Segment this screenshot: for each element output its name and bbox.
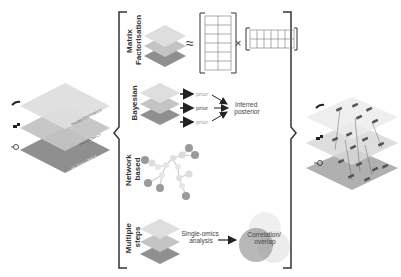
tall-matrix xyxy=(205,16,231,70)
times-symbol: × xyxy=(235,37,241,49)
input-omics-stack: TRANSCRIPTOMICS PROTEOMICS METABOLOMICS xyxy=(11,83,110,173)
single-omics-line2: analysis xyxy=(189,237,213,245)
method-title-line1: Multiple xyxy=(124,222,133,253)
posterior-line1: Inferred xyxy=(235,101,258,108)
dna-icon xyxy=(316,105,324,108)
output-integrated-stack xyxy=(306,97,398,190)
correlation-line2: overlap xyxy=(254,238,276,246)
wide-matrix xyxy=(250,30,294,48)
prior-label: prior xyxy=(196,105,208,111)
approx-symbol: ≈ xyxy=(186,35,194,51)
method-title-line1: Network xyxy=(124,154,133,186)
molecule-icon xyxy=(11,145,19,150)
protein-icon xyxy=(13,123,20,128)
prior-label: prior xyxy=(196,91,208,97)
output-transcriptomics-layer xyxy=(306,97,398,139)
method-title-line1: Matrix xyxy=(125,29,134,53)
posterior-line2: posterior xyxy=(234,108,260,116)
correlation-line1: Correlation/ xyxy=(247,231,281,238)
method-bayesian: Bayesian prior prior prior Inferred post… xyxy=(130,83,260,125)
svg-text:Inferred posterior: Inferred posterior xyxy=(234,101,260,116)
prior-label: prior xyxy=(196,119,208,125)
svg-text:Matrix Factorisation: Matrix Factorisation xyxy=(125,15,143,65)
svg-text:Single-omics analysis: Single-omics analysis xyxy=(181,230,220,245)
multi-omics-integration-diagram: TRANSCRIPTOMICS PROTEOMICS METABOLOMICS … xyxy=(0,0,401,277)
method-multiple-steps: Multiple steps Single-omics analysis Cor… xyxy=(124,212,290,264)
svg-text:Multiple steps: Multiple steps xyxy=(124,221,142,253)
network-nodes xyxy=(141,144,199,200)
method-network-based: Network based xyxy=(124,144,199,200)
svg-text:Network based: Network based xyxy=(124,152,142,186)
method-title-line1: Bayesian xyxy=(130,85,139,120)
dna-icon xyxy=(12,102,20,105)
method-title-line2: based xyxy=(133,157,142,180)
method-title-line2: Factorisation xyxy=(134,15,143,65)
method-matrix-factorisation: Matrix Factorisation ≈ × xyxy=(125,13,297,73)
